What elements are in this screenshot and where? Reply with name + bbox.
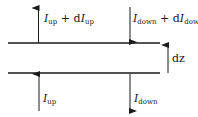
sub-down2: down (184, 18, 198, 26)
label-iup: Iup (43, 93, 56, 106)
label-iup-plus-diup: Iup + dIup (44, 13, 94, 26)
sub-up: up (47, 98, 56, 106)
sub-up: up (48, 18, 57, 26)
plus-d: + d (157, 12, 180, 25)
label-dz: dz (172, 53, 185, 64)
sub-up2: up (85, 18, 94, 26)
sub-down: down (137, 18, 156, 26)
label-idown: Idown (134, 93, 158, 106)
label-idown-plus-didown: Idown + dIdown (133, 13, 198, 26)
sub-down: down (138, 98, 157, 106)
plus-d: + d (57, 12, 80, 25)
